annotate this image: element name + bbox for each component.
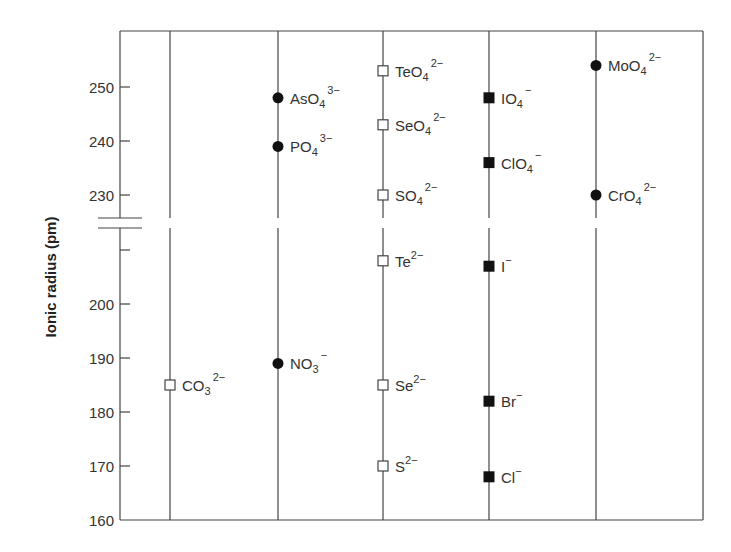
open-square-marker <box>378 66 388 76</box>
ion-subscript: 4 <box>636 195 642 207</box>
ion-subscript: 4 <box>312 146 318 158</box>
filled-square-marker <box>484 471 495 482</box>
y-axis-title: Ionic radius (pm) <box>42 217 59 338</box>
ion-label-seo4: SeO42− <box>395 111 446 137</box>
filled-square-marker <box>484 92 495 103</box>
ion-label-cro4: CrO42− <box>608 181 656 207</box>
ion-charge: 2− <box>425 181 438 193</box>
y-tick-label: 200 <box>89 296 114 313</box>
y-tick-label: 240 <box>89 133 114 150</box>
ion-subscript: 4 <box>641 65 647 77</box>
open-square-marker <box>378 256 388 266</box>
open-square-marker <box>378 461 388 471</box>
ion-label-no3: NO3− <box>290 349 327 375</box>
ion-label-s: S2− <box>395 454 418 475</box>
filled-circle-marker <box>273 92 284 103</box>
y-tick-label: 250 <box>89 79 114 96</box>
ion-charge: 2− <box>213 371 226 383</box>
ion-base: CO <box>182 377 205 394</box>
ionic-radius-chart: 250240230200190180170160 CO32−AsO43−PO43… <box>0 0 731 552</box>
ion-label-moo4: MoO42− <box>608 51 661 77</box>
y-tick-label: 180 <box>89 404 114 421</box>
ion-subscript: 4 <box>527 163 533 175</box>
data-points: CO32−AsO43−PO43−NO3−TeO42−SeO42−SO42−Te2… <box>165 51 661 485</box>
ion-subscript: 4 <box>425 125 431 137</box>
ion-charge: 2− <box>411 249 424 261</box>
filled-circle-marker <box>273 358 284 369</box>
column-lines <box>170 31 596 520</box>
ion-base: CrO <box>608 187 636 204</box>
ion-base: Cl <box>501 469 515 486</box>
ion-base: Se <box>395 377 413 394</box>
ion-subscript: 4 <box>417 195 423 207</box>
ion-label-cl: Cl− <box>501 465 522 486</box>
ion-label-so4: SO42− <box>395 181 437 207</box>
y-axis-ticks: 250240230200190180170160 <box>89 79 130 529</box>
ion-base: TeO <box>395 63 423 80</box>
ion-charge: − <box>505 254 511 266</box>
ion-base: NO <box>290 355 313 372</box>
ion-charge: − <box>516 389 522 401</box>
ion-label-po4: PO43− <box>290 132 332 158</box>
ion-charge: − <box>515 465 521 477</box>
ion-base: MoO <box>608 57 641 74</box>
ion-label-te: Te2− <box>395 249 423 270</box>
filled-circle-marker <box>273 141 284 152</box>
filled-square-marker <box>484 396 495 407</box>
ion-label-clo4: ClO4− <box>501 149 541 175</box>
ion-base: IO <box>501 90 517 107</box>
ion-charge: 2− <box>405 454 418 466</box>
ion-subscript: 3 <box>313 363 319 375</box>
filled-square-marker <box>484 157 495 168</box>
ion-base: SeO <box>395 117 425 134</box>
filled-square-marker <box>484 261 495 272</box>
ion-subscript: 4 <box>319 98 325 110</box>
open-square-marker <box>378 380 388 390</box>
ion-charge: − <box>525 84 531 96</box>
ion-charge: 2− <box>649 51 662 63</box>
y-tick-label: 230 <box>89 187 114 204</box>
ion-subscript: 4 <box>517 98 523 110</box>
ion-label-br: Br− <box>501 389 522 410</box>
filled-circle-marker <box>591 190 602 201</box>
ion-base: PO <box>290 138 312 155</box>
y-tick-label: 170 <box>89 458 114 475</box>
ion-base: Te <box>395 253 411 270</box>
filled-circle-marker <box>591 60 602 71</box>
ion-charge: 2− <box>431 57 444 69</box>
y-tick-label: 190 <box>89 350 114 367</box>
ion-base: Br <box>501 393 516 410</box>
ion-label-i: I− <box>501 254 512 275</box>
ion-charge: 3− <box>320 132 333 144</box>
ion-charge: 2− <box>644 181 657 193</box>
ion-label-io4: IO4− <box>501 84 531 110</box>
ion-subscript: 4 <box>423 71 429 83</box>
ion-base: AsO <box>290 90 319 107</box>
ion-base: S <box>395 458 405 475</box>
ion-subscript: 3 <box>205 385 211 397</box>
open-square-marker <box>378 120 388 130</box>
open-square-marker <box>378 190 388 200</box>
ion-charge: 2− <box>413 373 426 385</box>
ion-charge: − <box>321 349 327 361</box>
ion-base: ClO <box>501 155 527 172</box>
ion-charge: 3− <box>327 84 340 96</box>
ion-base: SO <box>395 187 417 204</box>
y-tick-label: 160 <box>89 512 114 529</box>
open-square-marker <box>165 380 175 390</box>
plot-frame <box>98 31 703 520</box>
ion-label-teo4: TeO42− <box>395 57 443 83</box>
ion-label-aso4: AsO43− <box>290 84 340 110</box>
ion-charge: 2− <box>433 111 446 123</box>
ion-charge: − <box>535 149 541 161</box>
ion-label-se: Se2− <box>395 373 426 394</box>
ion-label-co3: CO32− <box>182 371 225 397</box>
